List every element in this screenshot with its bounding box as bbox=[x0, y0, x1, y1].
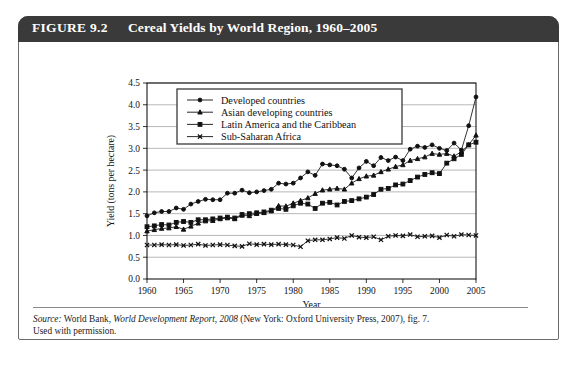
data-marker-triangle bbox=[408, 158, 412, 162]
data-marker-circle bbox=[394, 155, 398, 159]
x-tick-label: 1990 bbox=[357, 286, 376, 296]
data-marker-circle bbox=[233, 191, 237, 195]
source-text-1: World Bank, bbox=[62, 314, 114, 324]
data-marker-square bbox=[459, 153, 463, 157]
data-marker-circle bbox=[452, 141, 456, 145]
x-tick-label: 1980 bbox=[284, 286, 303, 296]
data-marker-square bbox=[467, 143, 471, 147]
data-marker-square bbox=[321, 201, 325, 205]
data-marker-square bbox=[196, 218, 200, 222]
figure-title: Cereal Yields by World Region, 1960–2005 bbox=[128, 20, 377, 36]
data-marker-triangle bbox=[423, 155, 427, 159]
series-3 bbox=[145, 140, 478, 228]
data-marker-triangle bbox=[371, 173, 375, 177]
legend-label: Asian developing countries bbox=[221, 107, 333, 118]
series-path bbox=[147, 142, 476, 226]
x-tick-label: 1975 bbox=[247, 286, 266, 296]
data-marker-square bbox=[233, 216, 237, 220]
data-marker-circle bbox=[343, 167, 347, 171]
data-marker-circle bbox=[306, 170, 310, 174]
data-marker-circle bbox=[189, 202, 193, 206]
source-note: Source: World Bank, World Development Re… bbox=[33, 313, 533, 338]
data-marker-circle bbox=[430, 143, 434, 147]
series-path bbox=[147, 135, 476, 231]
y-axis-title: Yield (tons per hectare) bbox=[105, 135, 117, 227]
y-tick-label: 3.0 bbox=[128, 144, 140, 154]
data-marker-square bbox=[262, 210, 266, 214]
y-tick-label: 3.5 bbox=[128, 122, 140, 132]
legend-label: Sub-Saharan Africa bbox=[221, 131, 302, 142]
x-tick-label: 1965 bbox=[174, 286, 193, 296]
x-tick-label: 1970 bbox=[211, 286, 230, 296]
y-tick-label: 1.0 bbox=[128, 231, 140, 241]
legend-label: Latin America and the Caribbean bbox=[221, 119, 356, 130]
data-marker-square bbox=[174, 220, 178, 224]
data-marker-circle bbox=[474, 95, 478, 99]
x-tick-label: 2000 bbox=[430, 286, 449, 296]
data-marker-square bbox=[226, 215, 230, 219]
data-marker-circle bbox=[160, 210, 164, 214]
data-marker-square bbox=[416, 175, 420, 179]
data-marker-square bbox=[182, 220, 186, 224]
data-marker-circle bbox=[350, 176, 354, 180]
data-marker-circle bbox=[438, 146, 442, 150]
y-tick-label: 0.0 bbox=[128, 274, 140, 284]
data-marker-triangle bbox=[145, 229, 149, 233]
data-marker-square bbox=[240, 213, 244, 217]
data-marker-circle bbox=[211, 198, 215, 202]
data-marker-square bbox=[204, 218, 208, 222]
data-marker-circle bbox=[198, 98, 202, 102]
data-marker-square bbox=[379, 187, 383, 191]
data-marker-triangle bbox=[364, 174, 368, 178]
data-marker-circle bbox=[372, 164, 376, 168]
data-marker-square bbox=[372, 193, 376, 197]
data-marker-square bbox=[408, 179, 412, 183]
data-marker-square bbox=[357, 197, 361, 201]
data-marker-triangle bbox=[415, 156, 419, 160]
data-marker-triangle bbox=[437, 152, 441, 156]
data-marker-square bbox=[198, 123, 202, 127]
data-marker-square bbox=[218, 216, 222, 220]
data-marker-circle bbox=[408, 147, 412, 151]
data-marker-triangle bbox=[174, 224, 178, 228]
figure-header-bar: FIGURE 9.2 Cereal Yields by World Region… bbox=[18, 16, 559, 42]
data-marker-circle bbox=[152, 211, 156, 215]
cereal-yields-line-chart: 0.00.51.01.52.02.53.03.54.04.51960196519… bbox=[19, 43, 558, 309]
figure-card: FIGURE 9.2 Cereal Yields by World Region… bbox=[18, 16, 559, 340]
data-marker-circle bbox=[218, 198, 222, 202]
x-tick-label: 1995 bbox=[394, 286, 413, 296]
data-marker-square bbox=[277, 207, 281, 211]
data-marker-circle bbox=[284, 182, 288, 186]
data-marker-circle bbox=[240, 188, 244, 192]
data-marker-triangle bbox=[386, 167, 390, 171]
source-text-2: (New York: Oxford University Press, 2007… bbox=[238, 314, 429, 324]
data-marker-circle bbox=[467, 124, 471, 128]
chart-plot-area: 0.00.51.01.52.02.53.03.54.04.51960196519… bbox=[19, 43, 558, 309]
data-marker-circle bbox=[196, 200, 200, 204]
data-marker-circle bbox=[269, 187, 273, 191]
data-marker-circle bbox=[423, 146, 427, 150]
series-2 bbox=[145, 133, 478, 233]
data-marker-square bbox=[284, 207, 288, 211]
data-marker-circle bbox=[145, 214, 149, 218]
data-marker-triangle bbox=[401, 162, 405, 166]
data-marker-square bbox=[291, 204, 295, 208]
data-marker-circle bbox=[204, 197, 208, 201]
y-tick-label: 2.5 bbox=[128, 166, 140, 176]
data-marker-square bbox=[445, 161, 449, 165]
data-marker-square bbox=[343, 200, 347, 204]
data-marker-square bbox=[306, 202, 310, 206]
x-tick-label: 1960 bbox=[138, 286, 157, 296]
data-marker-circle bbox=[379, 156, 383, 160]
data-marker-square bbox=[269, 208, 273, 212]
y-tick-label: 4.5 bbox=[128, 78, 140, 88]
data-marker-circle bbox=[328, 163, 332, 167]
y-tick-label: 0.5 bbox=[128, 253, 140, 263]
data-marker-triangle bbox=[430, 151, 434, 155]
data-marker-square bbox=[299, 201, 303, 205]
series-path bbox=[147, 235, 476, 247]
data-marker-circle bbox=[299, 176, 303, 180]
data-marker-circle bbox=[357, 166, 361, 170]
data-marker-triangle bbox=[328, 187, 332, 191]
data-marker-square bbox=[167, 223, 171, 227]
